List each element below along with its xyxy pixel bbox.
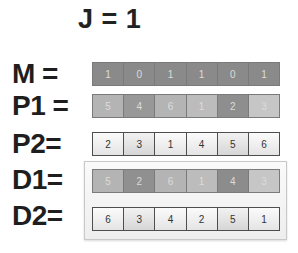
row-p1: 5 4 6 1 2 3 bbox=[92, 94, 280, 118]
d2-cell: 4 bbox=[154, 207, 186, 231]
m-cell: 0 bbox=[217, 62, 249, 86]
p2-cell: 3 bbox=[123, 132, 155, 156]
p2-cell: 4 bbox=[186, 132, 218, 156]
label-m: M = bbox=[12, 60, 58, 88]
p2-cell: 6 bbox=[248, 132, 280, 156]
p1-cell: 5 bbox=[92, 94, 124, 118]
label-p2: P2= bbox=[12, 130, 61, 158]
d1-cell: 2 bbox=[123, 169, 155, 193]
m-cell: 1 bbox=[186, 62, 218, 86]
d2-cell: 3 bbox=[123, 207, 155, 231]
label-d2: D2= bbox=[12, 202, 63, 230]
row-d1: 5 2 6 1 4 3 bbox=[92, 169, 280, 193]
d2-cell: 1 bbox=[248, 207, 280, 231]
m-cell: 1 bbox=[154, 62, 186, 86]
p1-cell: 6 bbox=[154, 94, 186, 118]
row-m: 1 0 1 1 0 1 bbox=[92, 62, 280, 86]
p1-cell: 3 bbox=[248, 94, 280, 118]
p2-cell: 2 bbox=[92, 132, 124, 156]
p1-cell: 1 bbox=[186, 94, 218, 118]
label-d1: D1= bbox=[12, 166, 63, 194]
title-j-equals-1: J = 1 bbox=[78, 4, 141, 35]
label-p1: P1 = bbox=[12, 92, 68, 120]
p2-cell: 1 bbox=[154, 132, 186, 156]
m-cell: 0 bbox=[123, 62, 155, 86]
m-cell: 1 bbox=[248, 62, 280, 86]
d1-cell: 3 bbox=[248, 169, 280, 193]
m-cell: 1 bbox=[92, 62, 124, 86]
d2-cell: 5 bbox=[217, 207, 249, 231]
d1-cell: 4 bbox=[217, 169, 249, 193]
p1-cell: 2 bbox=[217, 94, 249, 118]
row-p2: 2 3 1 4 5 6 bbox=[92, 132, 280, 156]
d1-cell: 1 bbox=[186, 169, 218, 193]
p1-cell: 4 bbox=[123, 94, 155, 118]
d2-cell: 6 bbox=[92, 207, 124, 231]
row-d2: 6 3 4 2 5 1 bbox=[92, 207, 280, 231]
d1-cell: 6 bbox=[154, 169, 186, 193]
d1-cell: 5 bbox=[92, 169, 124, 193]
d2-cell: 2 bbox=[186, 207, 218, 231]
p2-cell: 5 bbox=[217, 132, 249, 156]
